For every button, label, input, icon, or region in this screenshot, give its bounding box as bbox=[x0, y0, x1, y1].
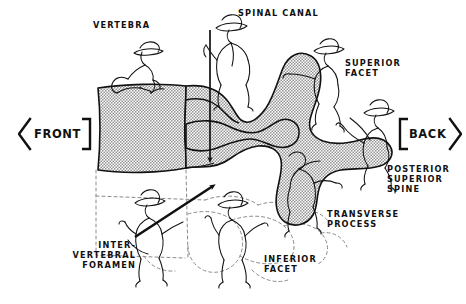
hat-icon bbox=[314, 39, 344, 54]
back-label: BACK bbox=[409, 127, 446, 141]
label-superior-facet: SUPERIOR FACET bbox=[345, 58, 401, 78]
figure-inferior-facet-worker bbox=[205, 192, 268, 288]
front-label: FRONT bbox=[34, 127, 81, 141]
left-arrow-icon bbox=[18, 117, 32, 151]
figure-intervertebral-foramen-worker bbox=[119, 190, 183, 287]
illustration-page: VERTEBRA SPINAL CANAL SUPERIOR FACET POS… bbox=[0, 0, 466, 304]
label-posterior-superior-spine: POSTERIOR SUPERIOR SPINE bbox=[387, 164, 450, 195]
hat-icon bbox=[134, 42, 163, 55]
label-spinal-canal: SPINAL CANAL bbox=[238, 8, 319, 18]
left-bracket-icon bbox=[398, 117, 408, 151]
hat-icon bbox=[218, 192, 248, 208]
right-arrow-icon bbox=[448, 117, 462, 151]
front-direction-marker: FRONT bbox=[18, 117, 92, 151]
label-inferior-facet: INFERIOR FACET bbox=[264, 254, 317, 274]
label-vertebra: VERTEBRA bbox=[93, 20, 150, 30]
right-bracket-icon bbox=[82, 117, 92, 151]
vertebral-body bbox=[98, 84, 186, 172]
label-intervertebral-foramen: INTER- VERTEBRAL FORAMEN bbox=[48, 240, 136, 271]
label-transverse-process: TRANSVERSE PROCESS bbox=[327, 209, 399, 229]
hat-icon bbox=[364, 100, 394, 116]
back-direction-marker: BACK bbox=[398, 117, 462, 151]
